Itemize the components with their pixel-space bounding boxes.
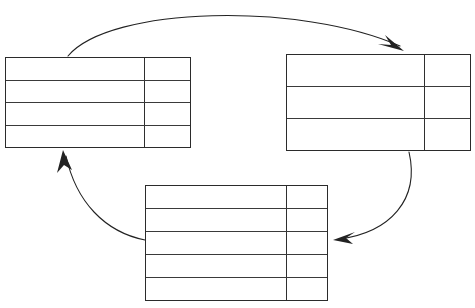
table-cell-main[interactable] (146, 186, 287, 208)
table-cell-side[interactable] (287, 209, 327, 231)
table-cell-side[interactable] (287, 232, 327, 254)
table-cell-side[interactable] (425, 119, 470, 150)
table-cell-side[interactable] (425, 55, 470, 86)
arrow-right-to-bottom-path (340, 152, 411, 239)
table-row[interactable] (146, 255, 327, 278)
table-cell-side[interactable] (145, 58, 190, 80)
table-cell-main[interactable] (6, 58, 145, 80)
table-cell-side[interactable] (145, 81, 190, 103)
diagram-canvas (0, 0, 475, 308)
table-row[interactable] (146, 232, 327, 255)
table-row[interactable] (146, 209, 327, 232)
table-row[interactable] (146, 278, 327, 300)
table-cell-main[interactable] (146, 232, 287, 254)
table-cell-main[interactable] (6, 103, 145, 125)
table-row[interactable] (6, 58, 190, 81)
table-row[interactable] (6, 103, 190, 126)
arrow-left-to-right-head (378, 35, 404, 51)
table-right[interactable] (286, 54, 471, 151)
table-cell-side[interactable] (425, 87, 470, 118)
table-row[interactable] (6, 126, 190, 148)
table-cell-main[interactable] (6, 81, 145, 103)
arrow-left-to-right-path (68, 16, 400, 56)
table-row[interactable] (287, 119, 470, 150)
table-cell-main[interactable] (287, 87, 425, 118)
table-cell-main[interactable] (146, 278, 287, 300)
table-cell-main[interactable] (287, 119, 425, 150)
table-cell-side[interactable] (287, 278, 327, 300)
table-cell-side[interactable] (287, 255, 327, 277)
table-bottom[interactable] (145, 185, 328, 301)
table-row[interactable] (287, 87, 470, 119)
table-left[interactable] (5, 57, 191, 148)
table-cell-main[interactable] (6, 126, 145, 148)
table-cell-main[interactable] (287, 55, 425, 86)
table-row[interactable] (146, 186, 327, 209)
table-cell-main[interactable] (146, 209, 287, 231)
table-cell-side[interactable] (287, 186, 327, 208)
arrow-right-to-bottom-head (333, 232, 355, 244)
arrow-bottom-to-left-path (66, 156, 145, 240)
table-cell-side[interactable] (145, 103, 190, 125)
table-row[interactable] (287, 55, 470, 87)
table-cell-main[interactable] (146, 255, 287, 277)
table-row[interactable] (6, 81, 190, 104)
table-cell-side[interactable] (145, 126, 190, 148)
